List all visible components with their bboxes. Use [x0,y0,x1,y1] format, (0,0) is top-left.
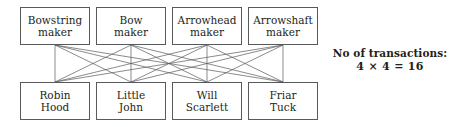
edge-arrowhead-maker-to-little-john [131,45,207,82]
node-robin-hood[interactable]: RobinHood [20,82,90,120]
edge-bowstring-maker-to-will-scarlett [55,45,207,82]
node-label-line2: Scarlett [186,101,228,113]
node-will-scarlett[interactable]: WillScarlett [172,82,242,120]
node-friar-tuck[interactable]: FriarTuck [248,82,318,120]
node-label-line2: maker [190,26,224,38]
node-little-john[interactable]: LittleJohn [96,82,166,120]
transactions-title: No of transactions: [330,46,450,60]
node-label-line1: Will [197,89,218,101]
node-label-line1: Bowstring [28,14,83,26]
node-label-line1: Little [117,89,145,101]
transactions-diagram: BowstringmakerBowmakerArrowheadmakerArro… [0,0,453,127]
node-label-line1: Arrowhead [178,14,237,26]
edge-arrowhead-maker-to-robin-hood [55,45,207,82]
node-label-line1: Friar [270,89,297,101]
node-arrowhead-maker[interactable]: Arrowheadmaker [172,7,242,45]
edge-bow-maker-to-friar-tuck [131,45,283,82]
edge-arrowshaft-maker-to-robin-hood [55,45,283,82]
node-label-line2: maker [266,26,300,38]
node-label-line1: Robin [39,89,70,101]
transactions-formula: 4 × 4 = 16 [330,60,450,75]
edge-bow-maker-to-will-scarlett [131,45,207,82]
edge-bowstring-maker-to-little-john [55,45,131,82]
node-label-line2: maker [38,26,72,38]
edge-bowstring-maker-to-friar-tuck [55,45,283,82]
node-label-line2: maker [114,26,148,38]
edge-bow-maker-to-robin-hood [55,45,131,82]
transactions-annotation: No of transactions: 4 × 4 = 16 [330,46,450,75]
node-label-line1: Arrowshaft [253,14,312,26]
node-bow-maker[interactable]: Bowmaker [96,7,166,45]
node-label-line2: Tuck [270,101,296,113]
edge-arrowshaft-maker-to-will-scarlett [207,45,283,82]
edge-arrowhead-maker-to-friar-tuck [207,45,283,82]
edge-group [55,45,283,82]
node-label-line2: Hood [41,101,70,113]
edge-arrowshaft-maker-to-little-john [131,45,283,82]
node-label-line1: Bow [119,14,142,26]
node-bowstring-maker[interactable]: Bowstringmaker [20,7,90,45]
node-arrowshaft-maker[interactable]: Arrowshaftmaker [248,7,318,45]
node-label-line2: John [119,101,143,113]
